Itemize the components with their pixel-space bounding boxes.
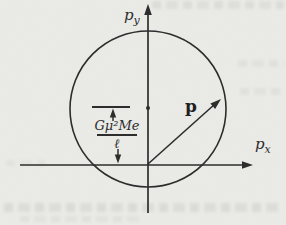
x-axis-label-subscript: x [265,143,271,156]
x-axis-label: px [255,137,271,155]
momentum-space-diagram [0,0,286,225]
annotation-numerator: Gμ²Me [94,119,140,133]
circle-center-dot [146,106,150,110]
annotation-denominator: ℓ [94,137,140,151]
center-offset-annotation: Gμ²Me ℓ [94,119,140,151]
p-vector-label: p [185,98,197,115]
y-axis-label-subscript: y [134,14,140,27]
x-axis-label-base: p [255,135,265,153]
y-axis-label-base: p [124,6,134,24]
scanned-textbook-figure: py px p Gμ²Me ℓ [0,0,286,225]
y-axis-label: py [124,8,140,26]
paper-grain [0,0,286,225]
